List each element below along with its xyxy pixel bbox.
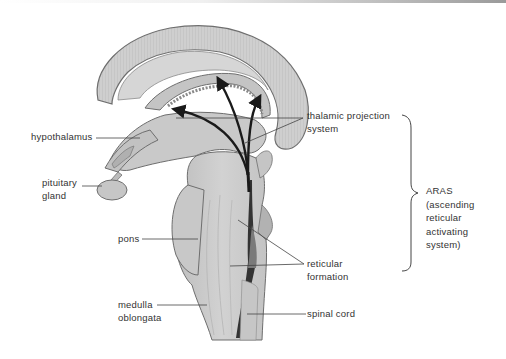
label-pituitary-line2: gland bbox=[42, 190, 77, 203]
label-aras-line3: reticular bbox=[426, 211, 474, 225]
label-medulla-line2: oblongata bbox=[118, 312, 162, 325]
label-thalamic-projection-system: thalamic projection system bbox=[307, 110, 390, 135]
label-hypothalamus: hypothalamus bbox=[31, 131, 93, 144]
label-aras: ARAS (ascending reticular activating sys… bbox=[426, 184, 474, 252]
label-thalamic-line2: system bbox=[307, 123, 390, 136]
label-reticular-line1: reticular bbox=[307, 258, 348, 271]
label-pituitary-gland: pituitary gland bbox=[42, 177, 77, 202]
label-reticular-line2: formation bbox=[307, 271, 348, 284]
label-thalamic-line1: thalamic projection bbox=[307, 110, 390, 123]
label-pituitary-line1: pituitary bbox=[42, 177, 77, 190]
aras-brace bbox=[402, 115, 418, 271]
label-aras-line2: (ascending bbox=[426, 198, 474, 212]
pituitary-gland bbox=[97, 180, 127, 200]
label-aras-line5: system) bbox=[426, 238, 474, 252]
label-medulla-line1: medulla bbox=[118, 299, 162, 312]
label-aras-line4: activating bbox=[426, 225, 474, 239]
label-medulla-oblongata: medulla oblongata bbox=[118, 299, 162, 324]
label-spinal-cord: spinal cord bbox=[307, 308, 355, 321]
label-reticular-formation: reticular formation bbox=[307, 258, 348, 283]
label-pons: pons bbox=[118, 233, 139, 246]
label-aras-line1: ARAS bbox=[426, 184, 474, 198]
brainstem bbox=[172, 151, 272, 340]
